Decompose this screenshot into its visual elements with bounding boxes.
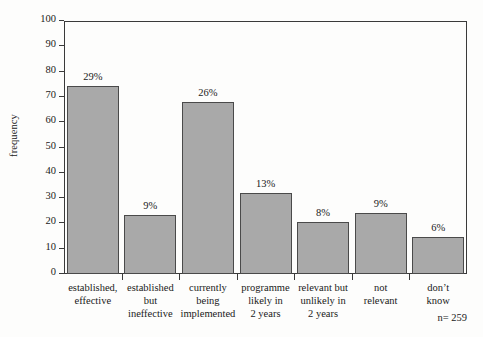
x-axis-category-label: not relevant <box>352 281 410 307</box>
y-tick-label: 50 <box>46 140 57 151</box>
bar-chart: frequency 0102030405060708090100 29%9%26… <box>0 0 483 337</box>
x-axis-tick <box>122 274 123 280</box>
bar-value-label: 6% <box>408 222 468 233</box>
y-tick-mark <box>59 172 64 173</box>
y-tick-label: 10 <box>46 241 57 252</box>
bar <box>240 193 292 274</box>
x-axis-category-label: don’t know <box>409 281 467 307</box>
bar <box>182 102 234 274</box>
y-tick-label: 30 <box>46 190 57 201</box>
x-axis-category-label: relevant but unlikely in 2 years <box>294 281 352 320</box>
y-tick-label: 20 <box>46 215 57 226</box>
y-tick-mark <box>59 197 64 198</box>
bar <box>355 213 407 274</box>
x-axis-tick <box>409 274 410 280</box>
bar <box>124 215 176 274</box>
x-axis-category-label: currently being implemented <box>179 281 237 320</box>
bar-value-label: 9% <box>351 198 411 209</box>
bar <box>412 237 464 274</box>
y-tick-mark <box>59 96 64 97</box>
y-tick-mark <box>59 273 64 274</box>
x-axis-tick <box>237 274 238 280</box>
y-tick-mark <box>59 222 64 223</box>
bar <box>297 222 349 274</box>
y-tick-label: 60 <box>46 114 57 125</box>
x-axis-category-label: established, effective <box>64 281 122 307</box>
y-tick-label: 80 <box>46 64 57 75</box>
sample-size-annotation: n= 259 <box>437 312 467 323</box>
y-tick-label: 40 <box>46 165 57 176</box>
y-tick-mark <box>59 248 64 249</box>
bar-value-label: 13% <box>236 178 296 189</box>
y-tick-mark <box>59 20 64 21</box>
bar <box>67 86 119 274</box>
y-tick-label: 90 <box>46 38 57 49</box>
y-tick-label: 0 <box>51 266 56 277</box>
y-tick-mark <box>59 121 64 122</box>
y-tick-label: 70 <box>46 89 57 100</box>
bar-value-label: 9% <box>120 200 180 211</box>
y-tick-mark <box>59 147 64 148</box>
x-axis-category-label: established but ineffective <box>122 281 180 320</box>
y-tick-mark <box>59 45 64 46</box>
y-tick-label: 100 <box>40 13 56 24</box>
bar-value-label: 29% <box>63 71 123 82</box>
x-axis-tick <box>352 274 353 280</box>
x-axis-tick <box>294 274 295 280</box>
bar-value-label: 8% <box>293 207 353 218</box>
x-axis-tick <box>179 274 180 280</box>
bar-value-label: 26% <box>178 87 238 98</box>
x-axis-category-label: programme likely in 2 years <box>237 281 295 320</box>
y-axis-title: frequency <box>8 91 19 181</box>
